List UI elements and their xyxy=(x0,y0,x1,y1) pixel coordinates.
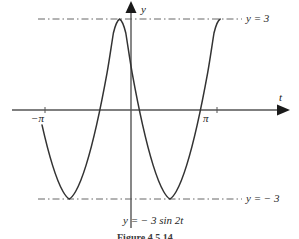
level-label-y-positive-3: y = 3 xyxy=(246,13,269,24)
tick-label-pi: π xyxy=(203,113,209,124)
tick-label-negative-pi: −π xyxy=(31,113,44,124)
level-label-y-negative-3: y = − 3 xyxy=(246,193,279,204)
figure-container: y t −π π y = 3 y = − 3 y = − 3 sin 2t Fi… xyxy=(0,0,299,239)
t-axis-arrowhead xyxy=(277,105,290,116)
y-axis-label: y xyxy=(141,4,146,15)
y-axis-arrowhead xyxy=(126,1,137,13)
t-axis-label: t xyxy=(279,92,282,103)
equation-label: y = − 3 sin 2t xyxy=(123,215,183,226)
figure-caption: Figure 4.5.14 xyxy=(117,233,173,239)
